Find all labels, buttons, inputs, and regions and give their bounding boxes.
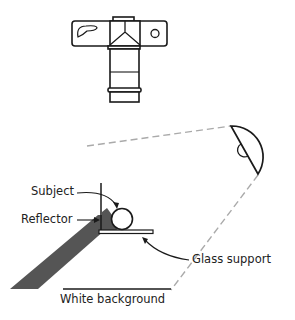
label-reflector: Reflector <box>21 214 72 226</box>
camera-icon <box>72 17 167 102</box>
label-glass-support: Glass support <box>192 254 271 266</box>
lighting-diagram <box>0 0 295 320</box>
label-subject: Subject <box>31 186 74 198</box>
glass-support <box>99 230 153 234</box>
subject-sphere <box>112 209 133 230</box>
label-white-background: White background <box>60 294 165 306</box>
light-icon <box>231 126 263 174</box>
